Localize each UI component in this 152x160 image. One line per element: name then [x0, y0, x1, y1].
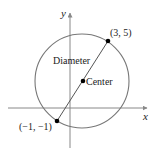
upper-endpoint-label: (3, 5) [110, 27, 132, 39]
center-label: Center [86, 76, 113, 87]
upper-endpoint-dot [106, 39, 111, 44]
y-axis-label: y [60, 7, 66, 19]
center-dot [81, 79, 86, 84]
x-axis-label: x [142, 110, 148, 122]
diameter-label: Diameter [53, 55, 91, 66]
coordinate-diagram: y x (3, 5) (−1, −1) Diameter Center [0, 0, 152, 160]
lower-endpoint-dot [55, 119, 60, 124]
lower-endpoint-label: (−1, −1) [19, 121, 52, 133]
